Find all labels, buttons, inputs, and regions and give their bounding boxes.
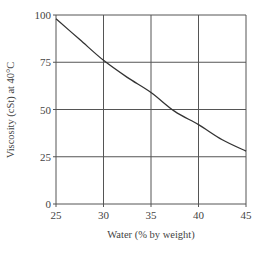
y-tick-labels: 0255075100	[35, 9, 52, 210]
x-tick-label: 35	[146, 209, 158, 221]
y-tick-label: 75	[40, 56, 52, 68]
x-tick-label: 25	[51, 209, 63, 221]
y-tick-label: 50	[40, 104, 52, 116]
y-tick-label: 100	[35, 9, 52, 21]
x-tick-label: 30	[98, 209, 110, 221]
y-axis-title: Viscosity (cSt) at 40°C	[5, 62, 17, 159]
y-tick-label: 0	[46, 198, 52, 210]
y-tick-label: 25	[40, 151, 52, 163]
x-tick-label: 45	[241, 209, 253, 221]
x-axis-title: Water (% by weight)	[107, 229, 195, 241]
x-tick-labels: 2530354045	[51, 209, 253, 221]
x-tick-label: 40	[193, 209, 205, 221]
axis-ticks	[53, 15, 246, 207]
chart: 2530354045 0255075100 Water (% by weight…	[0, 0, 266, 254]
